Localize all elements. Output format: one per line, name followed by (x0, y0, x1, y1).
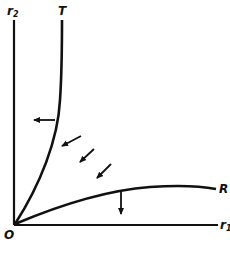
R-curve-label: R (219, 182, 228, 196)
y-axis-label: r2 (7, 4, 19, 19)
curve-R (15, 186, 216, 224)
x-axis-label: r1 (220, 218, 230, 233)
flow-arrow-2 (80, 149, 94, 162)
phase-diagram: r2 T R r1 O (0, 0, 230, 253)
flow-arrow-1 (62, 136, 81, 146)
flow-arrow-3 (97, 164, 111, 178)
curve-T (15, 20, 62, 224)
T-curve-label: T (58, 4, 67, 18)
origin-label: O (4, 228, 14, 242)
